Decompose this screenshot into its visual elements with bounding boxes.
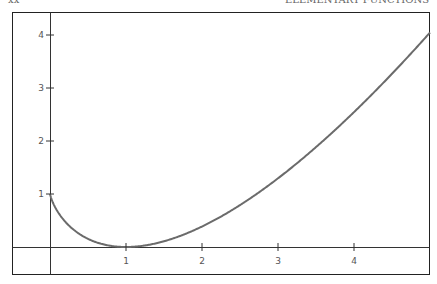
axes xyxy=(13,13,430,275)
plot-frame xyxy=(13,13,430,275)
y-tick-label: 3 xyxy=(38,83,44,93)
x-tick-label: 1 xyxy=(123,256,129,266)
y-tick-label: 2 xyxy=(38,136,44,146)
x-tick-label: 3 xyxy=(275,256,281,266)
y-tick-label: 4 xyxy=(38,30,44,40)
y-tick-label: 1 xyxy=(38,189,44,199)
function-curve xyxy=(50,33,430,248)
x-axis-ticks: 1234 xyxy=(123,243,357,266)
x-tick-label: 2 xyxy=(199,256,205,266)
x-tick-label: 4 xyxy=(351,256,357,266)
y-axis-ticks: 1234 xyxy=(38,30,54,199)
function-plot: 1234 1234 xyxy=(0,0,437,284)
